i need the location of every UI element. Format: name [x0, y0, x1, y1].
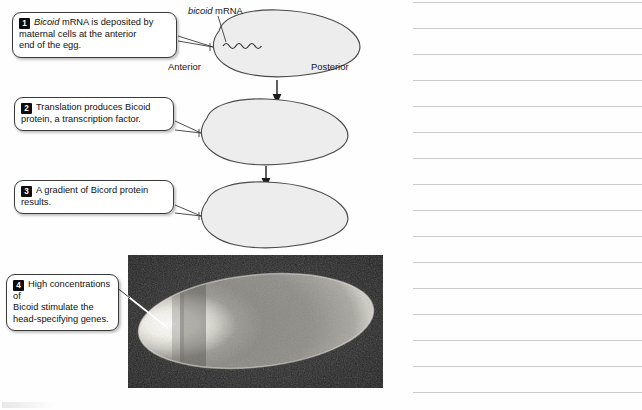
- note-rule: [413, 392, 642, 393]
- note-rule: [413, 184, 642, 185]
- callout-step-4-text: High concentrations of Bicoid stimulate …: [13, 279, 111, 325]
- note-rule: [413, 28, 642, 29]
- note-rule: [413, 288, 642, 289]
- page-canvas: bicoid mRNA Anterior Posterior 1 Bicoid …: [0, 0, 642, 410]
- step-badge-2: 2: [21, 103, 32, 114]
- callout-step-4[interactable]: 4 High concentrations of Bicoid stimulat…: [6, 274, 119, 331]
- callout-step-1[interactable]: 1 Bicoid mRNA is deposited by maternal c…: [12, 12, 177, 58]
- step-badge-4: 4: [13, 280, 24, 291]
- notes-panel: [403, 0, 642, 410]
- mrna-label-italic: bicoid: [188, 5, 213, 16]
- callout-1-italic: Bicoid: [34, 17, 59, 27]
- anterior-label: Anterior: [168, 61, 201, 72]
- figure-panel: bicoid mRNA Anterior Posterior 1 Bicoid …: [0, 0, 400, 410]
- note-rule: [413, 236, 642, 237]
- note-rule: [413, 366, 642, 367]
- note-rule: [413, 314, 642, 315]
- note-rule: [413, 210, 642, 211]
- note-rule: [413, 262, 642, 263]
- note-rule: [413, 54, 642, 55]
- posterior-label: Posterior: [311, 61, 349, 72]
- note-rule: [413, 132, 642, 133]
- note-rule: [413, 2, 642, 3]
- note-rule: [413, 340, 642, 341]
- callout-step-3[interactable]: 3 A gradient of Bicord protein results.: [14, 180, 174, 214]
- note-rule: [413, 80, 642, 81]
- step-badge-3: 3: [21, 186, 32, 197]
- callout-step-2[interactable]: 2 Translation produces Bicoid protein, a…: [14, 97, 174, 131]
- mrna-label-rest: mRNA: [213, 5, 243, 16]
- callout-step-3-text: A gradient of Bicord protein results.: [21, 185, 166, 208]
- egg-shape-stage-2: [201, 99, 348, 165]
- step-badge-1: 1: [19, 18, 30, 29]
- callout-step-2-text: Translation produces Bicoid protein, a t…: [21, 102, 166, 125]
- egg-shape-stage-3: [201, 182, 348, 248]
- callout-step-1-text: Bicoid mRNA is deposited by maternal cel…: [19, 17, 169, 52]
- note-rule: [413, 158, 642, 159]
- mrna-label: bicoid mRNA: [188, 5, 243, 16]
- note-rule: [413, 106, 642, 107]
